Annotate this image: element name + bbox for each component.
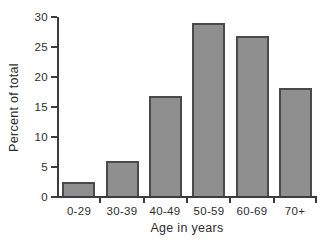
x-axis-tick-label: 40-49 [140,204,190,218]
y-axis-tick-label: 10 [22,130,48,144]
y-axis-tick [51,46,57,48]
bar-70+ [279,88,312,196]
y-axis-tick-label: 15 [22,100,48,114]
x-axis-tick-label: 70+ [270,204,320,218]
y-axis-tick [51,196,57,198]
x-axis-tick [99,198,101,203]
bar-30-39 [106,161,139,196]
y-axis-title: Percent of total [7,18,22,198]
bar-0-29 [62,182,95,196]
y-axis-tick [51,76,57,78]
x-axis-tick [143,198,145,203]
x-axis-tick [186,198,188,203]
y-axis-tick [51,16,57,18]
bar-50-59 [192,23,225,196]
plot-area [57,17,317,198]
x-axis-title: Age in years [57,221,317,235]
y-axis-tick [51,136,57,138]
y-axis-tick-label: 5 [22,160,48,174]
bar-60-69 [236,36,269,196]
y-axis-tick-label: 0 [22,190,48,204]
x-axis-tick [315,198,317,203]
y-axis-tick-label: 20 [22,70,48,84]
y-axis-tick [51,106,57,108]
age-distribution-bar-chart: Percent of total 0510152025300-2930-3940… [0,0,330,250]
x-axis-tick [273,198,275,203]
bar-40-49 [149,96,182,196]
y-axis-tick [51,166,57,168]
y-axis-tick-label: 30 [22,10,48,24]
x-axis-tick [229,198,231,203]
y-axis-tick-label: 25 [22,40,48,54]
